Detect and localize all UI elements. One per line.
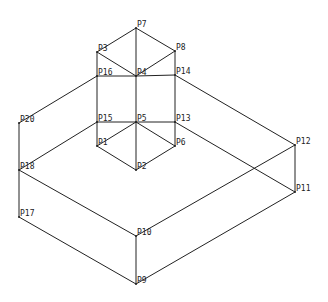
vertex-label-p1: P1 [98, 138, 108, 147]
vertex-label-p18: P18 [20, 162, 35, 171]
vertex-label-p3: P3 [98, 44, 108, 53]
edge-p5-p6 [136, 122, 175, 146]
vertex-label-p13: P13 [176, 114, 191, 123]
edge-p9-p11 [136, 192, 295, 284]
vertex-label-p6: P6 [176, 138, 186, 147]
vertex-label-p4: P4 [137, 68, 147, 77]
vertex-label-p20: P20 [20, 115, 35, 124]
vertex-label-p9: P9 [137, 276, 147, 285]
wireframe-diagram: P1P2P3P4P5P6P7P8P9P10P11P12P13P14P15P16P… [0, 0, 328, 302]
vertex-label-p17: P17 [20, 209, 35, 218]
edge-p10-p12 [136, 145, 295, 236]
vertex-label-p16: P16 [98, 68, 113, 77]
vertex-label-p5: P5 [137, 114, 147, 123]
vertex-label-p11: P11 [296, 184, 311, 193]
edge-p1-p2 [97, 146, 136, 170]
edge-p18-p10 [19, 170, 136, 236]
vertex-label-p12: P12 [296, 137, 311, 146]
vertex-label-p8: P8 [176, 43, 186, 52]
edge-p7-p8 [136, 28, 175, 51]
vertex-label-p2: P2 [137, 162, 147, 171]
edges-group [19, 28, 295, 284]
vertex-label-p15: P15 [98, 114, 113, 123]
vertex-label-p14: P14 [176, 67, 191, 76]
vertex-label-p10: P10 [137, 228, 152, 237]
edge-p17-p9 [19, 217, 136, 284]
edge-p13-p11 [175, 122, 295, 192]
edge-p14-p12 [175, 75, 295, 145]
vertex-label-p7: P7 [137, 20, 147, 29]
